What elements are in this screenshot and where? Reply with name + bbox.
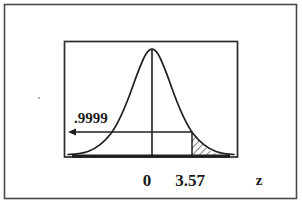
axis-label-z: z [256,172,263,188]
tick-label-z-value: 3.57 [175,171,205,190]
plot-box-border [65,42,238,158]
normal-curve-figure: .9999 0 3.57 z [0,0,302,205]
figure-container: .9999 0 3.57 z [0,0,302,205]
tick-label-zero: 0 [143,171,152,190]
scan-speck [38,97,40,99]
probability-label: .9999 [74,110,108,126]
